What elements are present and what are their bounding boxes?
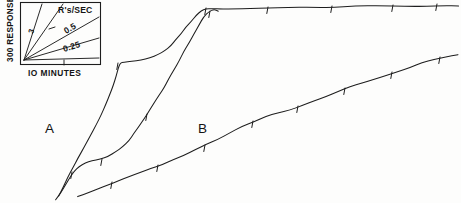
rate-calibration-legend: 3 0.5 0.25 R's/SEC 300 RESPONSES IO MINU… <box>6 0 101 78</box>
curve-trace <box>78 55 458 197</box>
reinforcement-pip-icon <box>436 4 437 11</box>
cumulative-curve-a <box>59 4 459 196</box>
plot-canvas: 3 0.5 0.25 R's/SEC 300 RESPONSES IO MINU… <box>0 0 461 203</box>
curve-trace <box>56 10 219 200</box>
curve-trace <box>59 6 459 196</box>
reinforcement-pip-icon <box>111 182 112 189</box>
legend-slope-label-3: 3 <box>26 28 36 35</box>
legend-slope-label-025: 0.25 <box>62 39 82 54</box>
legend-pip-tick-icon <box>49 27 55 29</box>
cumulative-record-figure: 3 0.5 0.25 R's/SEC 300 RESPONSES IO MINU… <box>0 0 461 203</box>
legend-slope-label-05: 0.5 <box>62 21 78 36</box>
legend-title: R's/SEC <box>58 5 93 15</box>
curve-label-a: A <box>45 121 54 136</box>
legend-x-axis-label: IO MINUTES <box>28 68 81 78</box>
reinforcement-pip-icon <box>391 72 392 79</box>
cumulative-curve-b <box>78 55 458 197</box>
legend-ray-slope-025 <box>24 38 99 60</box>
cumulative-curves-layer <box>56 4 459 200</box>
curve-label-b: B <box>198 121 207 136</box>
reinforcement-pip-icon <box>157 165 158 172</box>
cumulative-curve-a2 <box>56 10 219 200</box>
reinforcement-pip-icon <box>71 172 72 179</box>
reinforcement-pip-icon <box>101 159 102 166</box>
legend-y-axis-label: 300 RESPONSES <box>6 0 15 62</box>
legend-ray-baseline <box>24 58 99 60</box>
